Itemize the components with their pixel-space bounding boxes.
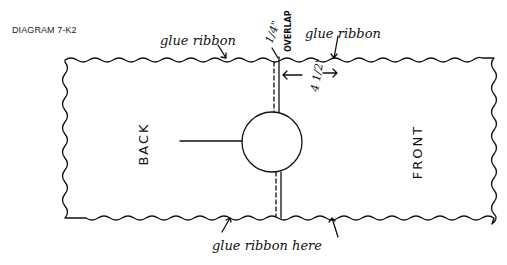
measure-arrow-right [323,69,337,77]
label-width-measure: 4 1/2" [308,58,327,94]
diagram-drawing: glue ribbon glue ribbon glue ribbon here… [0,0,507,265]
diagram-canvas: DIAGRAM 7-K2 [0,0,507,265]
label-glue-ribbon-top-right: glue ribbon [305,26,381,41]
measure-arrow-left [283,71,302,79]
overlap-leader [272,48,278,58]
label-glue-ribbon-bottom: glue ribbon here [212,238,322,253]
center-circle [242,112,302,172]
glue-arrow-bottom-right [329,218,338,237]
label-overlap-measure: 1/4" [263,19,283,45]
label-overlap: OVERLAP [284,10,293,52]
label-front: FRONT [410,125,425,179]
glue-arrow-bottom-left [222,218,231,232]
label-glue-ribbon-top-left: glue ribbon [160,33,236,48]
label-back: BACK [136,122,151,165]
